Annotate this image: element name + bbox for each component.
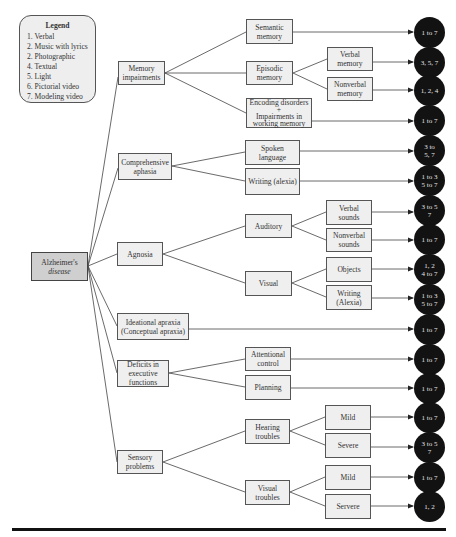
bottom-rule <box>12 528 446 531</box>
node-text: Comprehensive <box>121 158 169 167</box>
legend-item: 2. Music with lyrics <box>27 42 95 52</box>
node-text: Mild <box>341 473 356 482</box>
node-text: disease <box>41 267 77 276</box>
outcome-circle: 1 to 7 <box>414 462 445 493</box>
outcome-circle: 3 to5, 7 <box>414 135 445 166</box>
node-text: Nonverbal <box>334 80 366 89</box>
node-agnosia: Agnosia <box>117 242 163 266</box>
node-text: sounds <box>333 240 365 249</box>
legend-item: 6. Pictorial video <box>27 82 95 92</box>
outcome-text: 4 to 7 <box>422 270 438 278</box>
outcome-text: 5, 7 <box>424 151 435 159</box>
node-text: control <box>251 359 285 368</box>
node-text: Visual <box>259 279 278 288</box>
node-nonverbal-memory: Nonverbalmemory <box>327 77 373 101</box>
node-text: Memory <box>123 64 161 73</box>
node-text: Writing <box>336 289 361 298</box>
node-verbal-sounds: Verbalsounds <box>326 200 372 225</box>
node-text: (Conceptual apraxia) <box>121 327 185 336</box>
outcome-text: 1 to 7 <box>422 117 438 125</box>
node-visual-troubles: Visualtroubles <box>245 480 290 505</box>
outcome-circle: 1 to 7 <box>414 105 445 136</box>
node-executive-deficits: Deficits inexecutivefunctions <box>117 360 169 387</box>
node-text: working memory <box>250 120 309 127</box>
node-visual: Visual <box>245 271 292 296</box>
node-text: Auditory <box>255 222 282 231</box>
node-text: Verbal <box>338 204 359 213</box>
outcome-text: 1, 2, 4 <box>421 87 439 95</box>
outcome-text: 1 to 7 <box>422 385 438 393</box>
node-auditory: Auditory <box>245 214 292 238</box>
node-writing-Alexia-visual: Writing(Alexia) <box>326 285 372 310</box>
node-text: (Alexia) <box>336 298 361 307</box>
node-objects: Objects <box>326 257 372 282</box>
node-sensory-problems: Sensoryproblems <box>117 450 163 474</box>
node-text: problems <box>126 462 154 471</box>
outcome-circle: 1, 24 to 7 <box>414 254 445 285</box>
node-text: aphasia <box>121 167 169 176</box>
node-text: troubles <box>255 493 279 502</box>
outcome-text: 7 <box>422 211 438 219</box>
node-encoding-disorders: Encoding disorders+Impairments inworking… <box>246 98 312 128</box>
outcome-text: 1 to 7 <box>422 236 438 244</box>
node-planning: Planning <box>245 375 291 400</box>
legend-title: Legend <box>27 21 88 31</box>
node-writing-alexia: Writing (alexia) <box>245 168 300 195</box>
outcome-text: 7 <box>422 448 438 456</box>
node-spoken-language: Spokenlanguage <box>245 140 300 165</box>
outcome-text: 5 to 7 <box>422 181 438 189</box>
outcome-circle: 1 to 7 <box>414 402 445 433</box>
node-text: Nonverbal <box>333 231 365 240</box>
legend-item: 2. Photographic <box>27 52 95 62</box>
node-text: Spoken <box>259 144 286 153</box>
node-attentional-control: Attentionalcontrol <box>245 347 291 371</box>
node-text: Attentional <box>251 350 285 359</box>
outcome-text: 3 to 5 <box>422 440 438 448</box>
node-text: Servere <box>336 502 359 511</box>
legend-item: 1. Verbal <box>27 32 95 42</box>
outcome-circle: 3 to 57 <box>414 432 445 463</box>
node-text: Agnosia <box>127 250 152 259</box>
outcome-text: 3 to <box>424 143 435 151</box>
outcome-circle: 1, 2 <box>414 491 445 522</box>
node-text: memory <box>337 59 362 68</box>
node-text: Writing (alexia) <box>248 177 296 186</box>
outcome-circle: 1 to 35 to 7 <box>414 284 445 315</box>
outcome-text: 5 to 7 <box>422 300 438 308</box>
node-text: Hearing <box>255 423 279 432</box>
outcome-text: 1, 2 <box>424 503 435 511</box>
node-text: Semantic <box>255 23 283 32</box>
outcome-circle: 3 to 57 <box>414 195 445 226</box>
node-verbal-memory: Verbalmemory <box>327 47 373 71</box>
outcome-text: 1 to 7 <box>422 414 438 422</box>
outcome-circle: 1 to 7 <box>414 224 445 255</box>
outcome-text: 1 to 7 <box>422 29 438 37</box>
outcome-circle: 1 to 35 to 7 <box>414 165 445 196</box>
outcome-circle: 3, 5, 7 <box>414 47 445 78</box>
node-text: memory <box>334 89 366 98</box>
legend-item: 5. Light <box>27 72 95 82</box>
node-text: Deficits in <box>127 360 159 369</box>
legend-item: 4. Textual <box>27 62 95 72</box>
node-text: Visual <box>255 484 279 493</box>
node-ideational-apraxia: Ideational apraxia(Conceptual apraxia) <box>117 313 189 340</box>
node-text: Objects <box>337 265 360 274</box>
node-text: Planning <box>254 383 281 392</box>
node-text: sounds <box>338 213 359 222</box>
node-comprehensive-aphasia: Comprehensiveaphasia <box>118 153 172 180</box>
outcome-text: 1, 2 <box>422 262 438 270</box>
node-text: language <box>259 153 286 162</box>
outcome-circle: 1, 2, 4 <box>414 75 445 106</box>
outcome-circle: 1 to 7 <box>414 344 445 375</box>
node-text: memory <box>256 73 283 82</box>
node-text: Ideational apraxia <box>121 318 185 327</box>
outcome-circle: 1 to 7 <box>414 373 445 404</box>
root-node-alzheimers: Alzheimer'sdisease <box>31 252 88 281</box>
node-memory-impairments: Memoryimpairments <box>118 61 165 85</box>
node-text: impairments <box>123 73 161 82</box>
node-mild-visual: Mild <box>325 465 371 490</box>
node-text: Verbal <box>337 50 362 59</box>
node-mild-hearing: Mild <box>325 405 371 430</box>
node-text: Mild <box>341 413 356 422</box>
node-text: troubles <box>255 432 279 441</box>
